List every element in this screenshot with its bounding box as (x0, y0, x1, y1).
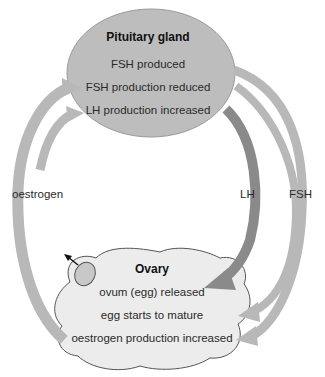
lh-arrow-label: LH (240, 188, 255, 200)
pituitary-line-fsh-produced: FSH produced (111, 58, 185, 70)
fsh-arrow-label: FSH (289, 188, 312, 200)
ovary-title: Ovary (135, 262, 169, 276)
pituitary-line-fsh-reduced: FSH production reduced (86, 81, 211, 93)
oestrogen-arrow-inner (40, 114, 72, 170)
ovary-line-ovum-released: ovum (egg) released (99, 286, 204, 298)
hormone-cycle-diagram: Pituitary gland FSH produced FSH product… (0, 0, 325, 377)
oestrogen-arrow-label: oestrogen (12, 188, 63, 200)
ovary-line-egg-matures: egg starts to mature (101, 309, 203, 321)
pituitary-line-lh-increased: LH production increased (86, 104, 211, 116)
pituitary-gland-shape (67, 9, 235, 137)
ovary-line-oestrogen-increased: oestrogen production increased (71, 332, 232, 344)
pituitary-title: Pituitary gland (106, 30, 189, 44)
